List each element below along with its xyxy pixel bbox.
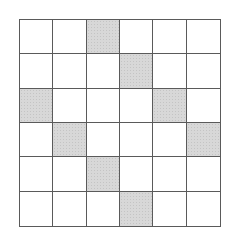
grid-diagram: [19, 19, 221, 227]
grid-cell: [187, 89, 220, 123]
grid-cell: [120, 157, 153, 191]
grid-cell: [53, 20, 86, 54]
grid-cell-shaded: [187, 123, 220, 157]
grid-cell-shaded: [120, 54, 153, 88]
grid-cell: [120, 123, 153, 157]
grid-cell: [87, 192, 120, 226]
grid-cell-shaded: [153, 89, 186, 123]
grid-cell: [153, 54, 186, 88]
grid-cell: [87, 123, 120, 157]
grid-cell: [153, 20, 186, 54]
grid-cell: [120, 20, 153, 54]
grid-cell: [187, 20, 220, 54]
grid-cell: [120, 89, 153, 123]
grid-cell: [53, 192, 86, 226]
grid-cell: [187, 54, 220, 88]
grid-cell: [153, 157, 186, 191]
grid-cell-shaded: [120, 192, 153, 226]
grid-cell: [53, 157, 86, 191]
grid-cell: [20, 192, 53, 226]
grid-cell: [53, 89, 86, 123]
grid-cell: [20, 20, 53, 54]
grid-cell: [87, 89, 120, 123]
grid-cell: [87, 54, 120, 88]
grid-cell: [187, 192, 220, 226]
grid-cell-shaded: [87, 157, 120, 191]
grid-cell: [187, 157, 220, 191]
grid-cell: [53, 54, 86, 88]
grid-cell-shaded: [20, 89, 53, 123]
grid-cell: [20, 54, 53, 88]
grid-cell-shaded: [53, 123, 86, 157]
grid-cell: [20, 123, 53, 157]
grid-cell: [20, 157, 53, 191]
grid-cell: [153, 192, 186, 226]
grid-cell-shaded: [87, 20, 120, 54]
grid-cell: [153, 123, 186, 157]
